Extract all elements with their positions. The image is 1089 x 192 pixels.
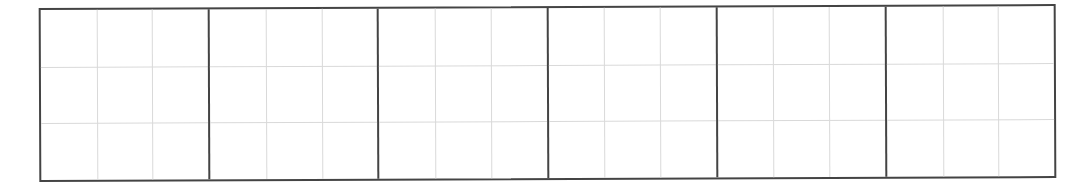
vertical-guide-line [998,6,1000,176]
vertical-guide-line [435,8,437,178]
horizontal-guide-line [548,64,715,66]
grid-square-3 [377,8,547,179]
horizontal-guide-line [887,63,1054,65]
grid-square-2 [208,9,378,180]
vertical-guide-line [773,7,775,177]
vertical-guide-line [829,7,831,177]
horizontal-guide-line [718,63,885,65]
vertical-guide-line [96,10,98,180]
vertical-guide-line [321,9,323,179]
horizontal-guide-line [379,65,546,67]
vertical-guide-line [660,8,662,178]
vertical-guide-line [604,8,606,178]
grid-square-6 [885,6,1055,177]
horizontal-guide-line [41,123,208,125]
horizontal-guide-line [210,65,377,67]
vertical-guide-line [266,9,268,179]
grid-square-1 [41,9,209,180]
horizontal-guide-line [549,121,716,123]
grid-square-5 [715,7,885,178]
horizontal-guide-line [887,119,1054,121]
horizontal-guide-line [41,66,208,68]
horizontal-guide-line [718,120,885,122]
vertical-guide-line [152,10,154,180]
vertical-guide-line [942,6,944,176]
grid-square-4 [546,7,716,178]
vertical-guide-line [490,8,492,178]
practice-grid-sheet [39,4,1057,182]
horizontal-guide-line [210,122,377,124]
horizontal-guide-line [379,121,546,123]
